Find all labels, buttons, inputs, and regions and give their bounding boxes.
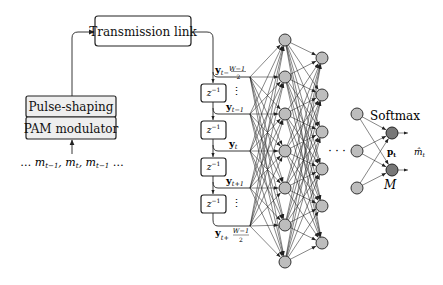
pam-modulator-label: PAM modulator [24,122,119,136]
layer-ellipsis: · · · [328,145,345,158]
estimated-symbol-label: m̂t [414,147,426,158]
softmax-label: Softmax [370,109,420,123]
delay-block-2: z−1 [201,121,226,139]
last-hidden-layer-neuron [351,145,363,157]
tap-label-4: yt+ [214,227,229,242]
hidden-layer-2-neuron [316,52,328,64]
connection-edge [250,225,279,226]
delay-block-1: z−1 [201,84,226,102]
connection-edge [285,211,318,262]
hidden-layer-1-neuron [279,108,291,120]
tap-label-3: yt+1 [225,175,244,188]
hidden-layer-2-neuron [316,163,328,175]
connection-edge [250,226,280,257]
softmax-output-neuron [386,164,398,176]
output-section: · · · Softmax pt M m̂t [328,109,425,192]
svg-text:2: 2 [237,73,241,80]
channel: Transmission link [89,16,197,46]
hidden-layer-2-neuron [316,200,328,212]
hidden-layer-2-neuron [316,126,328,138]
system-diagram: Pulse-shaping PAM modulator … mt−1, mt, … [0,0,443,285]
tap-label-2: yt [228,138,238,151]
last-hidden-layer-neuron [351,182,363,194]
delay-line: z−1 z−1 z−1 z−1 yt−W−1 2 yt−1 yt yt+1 yt… [201,64,250,243]
delay-block-4: z−1 [201,195,226,213]
hidden-layer-1-neuron [279,71,291,83]
tap-line-4 [213,213,250,226]
tx-to-channel-arrow [72,32,94,96]
hidden-layer-1-neuron [279,256,291,268]
connection-edge [285,174,318,225]
hidden-layer-2-neuron [316,237,328,249]
hidden-layer-1-neuron [279,145,291,157]
M-label: M [383,178,397,192]
hidden-layer-1-neuron [279,219,291,231]
connection-edge [285,64,321,262]
connection-edge [250,45,281,77]
transmission-link-label: Transmission link [89,25,197,39]
pulse-shaping-label: Pulse-shaping [29,100,114,114]
vdots-upper: ⋮ [231,85,242,98]
hidden-layer-1-neuron [279,34,291,46]
hidden-layer-2-neuron [316,89,328,101]
softmax-output-neuron [386,127,398,139]
tap-label-0: yt−W−1 [214,64,245,77]
channel-to-delay-arrow [191,32,213,83]
hidden-layer-1-neuron [279,182,291,194]
input-symbol-sequence: … mt−1, mt, mt−1 … [20,156,123,170]
probability-vector-label: pt [387,147,396,158]
svg-text:W−1: W−1 [233,227,249,235]
transmitter: Pulse-shaping PAM modulator … mt−1, mt, … [20,96,123,170]
svg-text:2: 2 [239,236,243,243]
vdots-lower: ⋮ [231,197,242,210]
connection-edge [285,77,321,237]
tap-label-1: yt−1 [225,101,244,114]
last-hidden-layer-neuron [351,108,363,120]
delay-block-3: z−1 [201,158,226,176]
